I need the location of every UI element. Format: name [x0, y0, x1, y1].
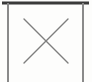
crossed-box-diagram: [0, 0, 92, 82]
crossed-box-figure: [0, 0, 92, 82]
